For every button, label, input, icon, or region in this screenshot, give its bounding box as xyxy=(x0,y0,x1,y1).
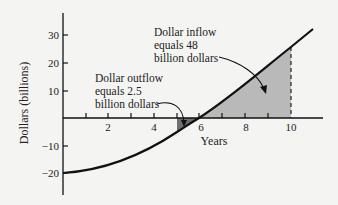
x-tick-label: 4 xyxy=(151,121,157,133)
inflow-annotation-line: billion dollars xyxy=(154,52,219,64)
chart-figure: 30 20 10 −10 −20 2 4 6 8 10 Years Dollar… xyxy=(0,0,338,205)
inflow-annotation-line: Dollar inflow xyxy=(154,26,217,38)
y-tick-label: −10 xyxy=(42,140,60,152)
x-tick-label: 10 xyxy=(286,121,298,133)
x-tick-label: 2 xyxy=(105,121,111,133)
y-axis-label: Dollars (billions) xyxy=(17,62,31,144)
inflow-annotation-line: equals 48 xyxy=(154,39,198,52)
x-axis-label: Years xyxy=(201,134,228,148)
y-ticks xyxy=(63,35,68,173)
y-tick-label: 10 xyxy=(48,85,60,97)
outflow-annotation-line: equals 2.5 xyxy=(95,85,142,98)
chart-svg: 30 20 10 −10 −20 2 4 6 8 10 Years Dollar… xyxy=(0,0,338,205)
outflow-annotation-line: Dollar outflow xyxy=(95,72,164,84)
y-tick-label: −20 xyxy=(42,167,60,179)
x-tick-label: 8 xyxy=(243,121,249,133)
outflow-annotation-line: billion dollars xyxy=(95,98,160,110)
y-tick-label: 30 xyxy=(48,29,60,41)
y-tick-label: 20 xyxy=(48,57,60,69)
x-tick-label: 6 xyxy=(198,121,204,133)
